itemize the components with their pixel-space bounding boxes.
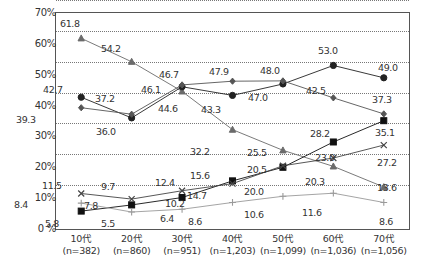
data-label: 14.7 (187, 190, 207, 201)
data-label: 54.2 (101, 43, 121, 54)
data-label: 46.1 (141, 84, 161, 95)
data-label: 13.6 (377, 182, 397, 193)
series-circle-filled-point (229, 92, 235, 98)
data-label: 10.2 (165, 198, 185, 209)
data-label: 7.8 (84, 200, 98, 211)
data-label: 8.6 (188, 216, 202, 227)
data-label: 10.6 (244, 209, 264, 220)
data-label: 42.5 (306, 85, 326, 96)
data-label: 8.6 (379, 216, 393, 227)
series-diamond-point (331, 95, 336, 101)
series-plus-point (229, 199, 236, 206)
data-label: 27.2 (377, 157, 397, 168)
data-label: 47.9 (209, 66, 229, 77)
line-chart: 0 %10%20%30%40%50%60%70% 10代(n=382)20代(n… (0, 0, 424, 273)
data-label: 43.3 (201, 104, 221, 115)
data-label: 47.0 (248, 92, 268, 103)
series-triangle (78, 35, 387, 190)
series-cross-x-line (81, 145, 384, 199)
series-plus (78, 190, 387, 216)
series-layer (0, 0, 424, 273)
data-label: 12.4 (155, 177, 175, 188)
series-triangle-line (81, 38, 384, 187)
series-plus-point (280, 193, 287, 200)
data-label: 20.3 (305, 176, 325, 187)
data-label: 25.5 (247, 147, 267, 158)
series-square-filled-point (381, 118, 387, 124)
series-square-filled-point (330, 139, 336, 145)
series-circle-filled-point (78, 94, 84, 100)
data-label: 20.0 (244, 186, 264, 197)
data-label: 9.7 (101, 181, 115, 192)
data-label: 46.7 (159, 69, 179, 80)
data-label: 5.5 (101, 218, 115, 229)
data-label: 15.6 (190, 170, 210, 181)
data-label: 5.8 (45, 218, 59, 229)
series-circle-filled (78, 62, 387, 121)
series-diamond-point (381, 111, 386, 117)
data-label: 39.3 (16, 114, 36, 125)
series-triangle-point (280, 147, 286, 153)
series-cross-x (78, 142, 387, 202)
data-label: 36.0 (96, 126, 116, 137)
data-label: 20.5 (247, 164, 267, 175)
data-label: 6.4 (160, 213, 174, 224)
series-circle-filled-point (381, 75, 387, 81)
data-label: 42.7 (43, 84, 63, 95)
series-triangle-point (78, 35, 84, 41)
data-label: 11.5 (42, 180, 62, 191)
data-label: 11.6 (302, 207, 322, 218)
series-plus-point (330, 190, 337, 197)
data-label: 49.0 (378, 62, 398, 73)
data-label: 35.1 (375, 127, 395, 138)
series-square-filled-point (129, 202, 135, 208)
series-circle-filled-line (81, 65, 384, 117)
series-square-filled-line (81, 121, 384, 211)
data-label: 53.0 (318, 45, 338, 56)
series-triangle-point (229, 126, 235, 132)
series-plus-point (380, 199, 387, 206)
data-label: 61.8 (60, 18, 80, 29)
data-label: 37.3 (372, 94, 392, 105)
series-diamond-point (230, 78, 235, 84)
data-label: 37.2 (95, 93, 115, 104)
series-triangle-point (128, 58, 134, 64)
series-circle-filled-point (330, 62, 336, 68)
data-label: 8.4 (14, 199, 28, 210)
data-label: 48.0 (260, 65, 280, 76)
data-label: 32.2 (190, 146, 210, 157)
data-label: 44.6 (158, 103, 178, 114)
series-cross-x-point (381, 142, 387, 148)
series-diamond-point (79, 105, 84, 111)
data-label: 23.0 (315, 152, 335, 163)
data-label: 28.2 (310, 128, 330, 139)
series-plus-point (128, 209, 135, 216)
